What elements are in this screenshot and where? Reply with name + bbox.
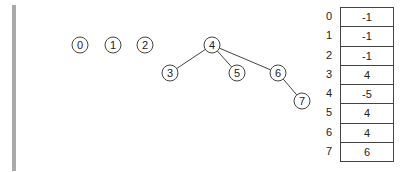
row-value: -1 bbox=[340, 46, 394, 65]
row-value: -1 bbox=[340, 26, 394, 45]
node-5: 5 bbox=[229, 65, 245, 81]
edge-6-7 bbox=[283, 79, 297, 95]
node-label: 2 bbox=[142, 39, 148, 51]
row-index: 6 bbox=[326, 123, 336, 142]
node-6: 6 bbox=[270, 65, 286, 81]
row-index: 2 bbox=[326, 46, 336, 65]
row-index: 0 bbox=[326, 7, 336, 26]
node-0: 0 bbox=[72, 37, 88, 53]
node-label: 0 bbox=[77, 39, 83, 51]
row-value: 4 bbox=[340, 103, 394, 122]
edge-4-5 bbox=[217, 51, 231, 67]
row-value: 6 bbox=[340, 142, 394, 162]
row-value: -5 bbox=[340, 84, 394, 103]
node-label: 6 bbox=[275, 67, 281, 79]
row-index: 4 bbox=[326, 84, 336, 103]
node-label: 7 bbox=[299, 95, 305, 107]
node-2: 2 bbox=[137, 37, 153, 53]
row-value: 4 bbox=[340, 123, 394, 142]
node-3: 3 bbox=[162, 65, 178, 81]
row-value: 4 bbox=[340, 65, 394, 84]
row-value: -1 bbox=[340, 7, 394, 26]
node-label: 5 bbox=[234, 67, 240, 79]
node-1: 1 bbox=[105, 37, 121, 53]
node-label: 4 bbox=[209, 39, 215, 51]
node-7: 7 bbox=[294, 93, 310, 109]
node-label: 1 bbox=[110, 39, 116, 51]
row-index: 3 bbox=[326, 65, 336, 84]
row-index: 5 bbox=[326, 103, 336, 122]
row-index: 1 bbox=[326, 26, 336, 45]
edge-4-3 bbox=[177, 49, 206, 68]
edge-4-6 bbox=[219, 48, 270, 70]
tree-diagram: 01234567 bbox=[0, 0, 330, 172]
row-index: 7 bbox=[326, 142, 336, 161]
node-4: 4 bbox=[204, 37, 220, 53]
node-label: 3 bbox=[167, 67, 173, 79]
